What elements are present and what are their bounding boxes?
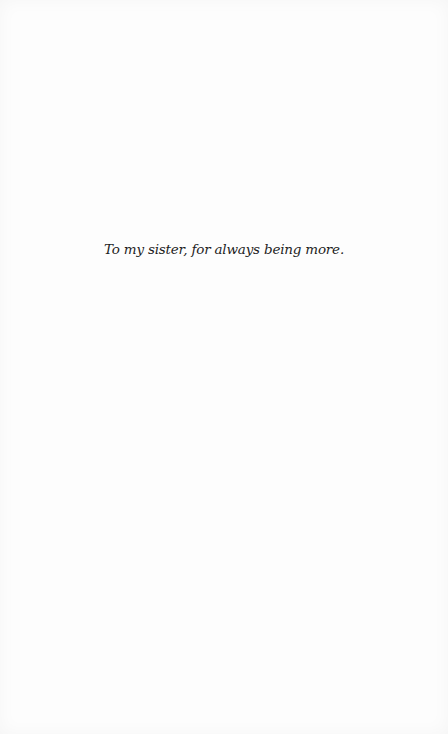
book-page: To my sister, for always being more. xyxy=(0,0,448,734)
dedication-text: To my sister, for always being more. xyxy=(0,239,448,259)
